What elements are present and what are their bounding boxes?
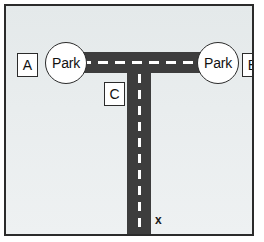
label-box-a[interactable]: A — [17, 53, 38, 77]
label-box-b-text: B — [248, 58, 254, 72]
label-box-c-text: C — [109, 87, 119, 101]
marker-x-label: x — [155, 214, 162, 226]
diagram-canvas: Park Park A B C x — [0, 0, 264, 242]
park-node-right-label: Park — [204, 56, 232, 70]
label-box-a-text: A — [23, 58, 32, 72]
diagram-frame: Park Park A B C x — [4, 4, 254, 236]
label-box-c[interactable]: C — [104, 82, 125, 106]
park-node-left-label: Park — [52, 56, 80, 70]
park-node-left[interactable]: Park — [45, 42, 87, 84]
park-node-right[interactable]: Park — [197, 42, 239, 84]
vertical-road-centerline — [138, 74, 141, 234]
label-box-b[interactable]: B — [242, 53, 254, 77]
